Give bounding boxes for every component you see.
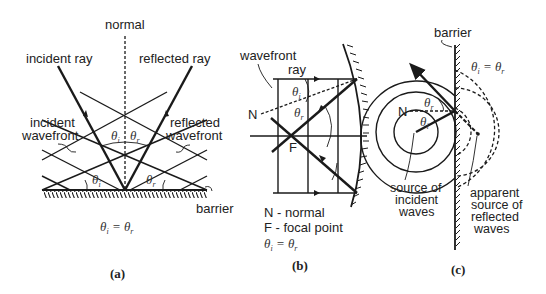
legend-focal-point: F - focal point bbox=[264, 220, 343, 235]
reflected-ray-bottom bbox=[271, 118, 357, 193]
ray-label-b: ray bbox=[288, 62, 307, 77]
barrier-c bbox=[455, 44, 460, 250]
apparent-source-label-4: waves bbox=[473, 222, 509, 236]
normal-label: normal bbox=[105, 17, 145, 32]
theta-r-b: θr bbox=[294, 105, 304, 122]
incident-ray-label: incident ray bbox=[26, 51, 93, 66]
reflection-diagram: barrier normal incident ray reflected ra… bbox=[0, 0, 546, 294]
caption-b: (b) bbox=[292, 258, 308, 273]
theta-r-c: θr bbox=[424, 95, 434, 112]
N-label-c: N bbox=[398, 104, 407, 119]
theta-r-top: θr bbox=[130, 128, 140, 145]
incident-wavefront-label-2: wavefront bbox=[21, 128, 79, 143]
angle-arc-r-b bbox=[325, 106, 332, 147]
caption-c: (c) bbox=[451, 262, 465, 277]
barrier-label-a: barrier bbox=[196, 201, 234, 216]
reflected-ray-c bbox=[414, 68, 455, 111]
ray-top-arrow bbox=[314, 76, 320, 82]
apparent-source-pointer bbox=[468, 136, 477, 186]
legend-normal: N - normal bbox=[264, 205, 325, 220]
theta-i-c: θi bbox=[420, 114, 429, 131]
source-incident-pointer bbox=[405, 133, 414, 180]
equation-a: θi = θr bbox=[100, 219, 134, 236]
wavefront-label-b: wavefront bbox=[239, 48, 297, 63]
equation-c: θi = θr bbox=[471, 59, 505, 76]
reflected-wavefront-label-2: wavefront bbox=[165, 128, 223, 143]
normal-line-b bbox=[261, 79, 357, 114]
theta-i-b: θi bbox=[292, 84, 301, 101]
reflected-ray-label: reflected ray bbox=[139, 51, 211, 66]
incident-wavefront-pointer bbox=[58, 144, 76, 152]
panel-b: N F θi θr wavefront ray N - normal F - f… bbox=[239, 44, 369, 273]
theta-r-bottom: θr bbox=[146, 172, 156, 189]
concave-mirror bbox=[343, 44, 369, 207]
reflected-wavefront-pointer bbox=[176, 145, 190, 152]
barrier-pointer-c bbox=[441, 40, 452, 47]
apparent-source-dot bbox=[476, 132, 480, 136]
panel-a: barrier normal incident ray reflected ra… bbox=[21, 17, 234, 281]
source-incident-label-3: waves bbox=[398, 205, 434, 219]
reflected-ray-top bbox=[272, 79, 357, 152]
N-label-b: N bbox=[248, 107, 257, 122]
theta-i-bottom: θi bbox=[92, 172, 101, 189]
apparent-ray-c bbox=[455, 111, 478, 134]
panel-c: barrier N θr θi θi = θr source o bbox=[361, 25, 523, 277]
equation-b: θi = θr bbox=[264, 236, 298, 253]
F-label: F bbox=[289, 140, 297, 155]
ray-bottom-arrow bbox=[314, 190, 320, 196]
angle-arc-right bbox=[163, 180, 165, 190]
angle-arc-left bbox=[85, 180, 87, 190]
reflected-wave-circles bbox=[455, 70, 499, 187]
barrier-label-c: barrier bbox=[434, 25, 472, 40]
theta-i-top: θi bbox=[111, 128, 120, 145]
wavefront-pointer-b bbox=[258, 64, 272, 88]
caption-a: (a) bbox=[110, 266, 125, 281]
